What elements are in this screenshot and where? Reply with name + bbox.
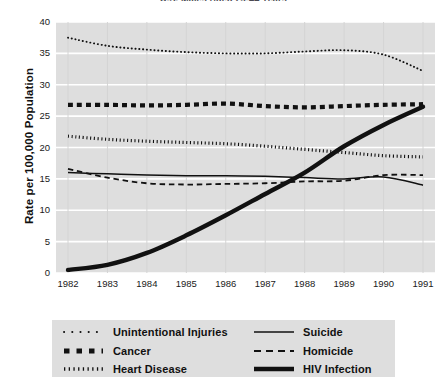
legend-swatch-icon [252, 362, 296, 376]
legend-item-label: Heart Disease [113, 363, 187, 375]
chart-legend: Unintentional InjuriesCancerHeart Diseas… [52, 320, 395, 377]
legend-column-left: Unintentional InjuriesCancerHeart Diseas… [52, 320, 242, 377]
x-tick-label: 1982 [46, 278, 90, 289]
legend-item[interactable]: Cancer [52, 341, 242, 360]
y-axis-ticks: 0510152025303540 [22, 0, 50, 300]
legend-item[interactable]: Heart Disease [52, 359, 242, 378]
y-tick-label: 5 [24, 236, 50, 247]
y-tick-label: 10 [24, 204, 50, 215]
series-line [68, 38, 423, 71]
legend-item[interactable]: Homicide [242, 341, 395, 360]
y-tick-label: 30 [24, 79, 50, 90]
series-line [68, 104, 423, 108]
x-tick-label: 1989 [322, 278, 366, 289]
series-line [68, 136, 423, 157]
legend-swatch-icon [252, 344, 296, 358]
x-tick-label: 1988 [283, 278, 327, 289]
plot-canvas [56, 22, 435, 273]
legend-item-label: Cancer [113, 345, 151, 357]
legend-swatch-icon [62, 325, 106, 339]
chart-figure: U.S. Males Aged 25-44 Years Rate per 100… [0, 0, 447, 391]
x-tick-label: 1984 [125, 278, 169, 289]
legend-item-label: Unintentional Injuries [113, 326, 228, 338]
y-tick-label: 0 [24, 267, 50, 278]
y-tick-label: 20 [24, 142, 50, 153]
x-tick-label: 1990 [362, 278, 406, 289]
y-tick-label: 35 [24, 47, 50, 58]
y-tick-label: 40 [24, 16, 50, 27]
x-tick-label: 1983 [85, 278, 129, 289]
y-tick-label: 25 [24, 110, 50, 121]
legend-swatch-icon [62, 362, 106, 376]
legend-item[interactable]: Unintentional Injuries [52, 322, 242, 341]
x-tick-label: 1986 [204, 278, 248, 289]
legend-swatch-icon [62, 344, 106, 358]
plot-area [56, 22, 435, 273]
legend-item[interactable]: Suicide [242, 322, 395, 341]
legend-item-label: HIV Infection [303, 363, 372, 375]
legend-item[interactable]: HIV Infection [242, 359, 395, 378]
legend-swatch-icon [252, 325, 296, 339]
series-line [68, 107, 423, 270]
x-tick-label: 1985 [164, 278, 208, 289]
x-tick-label: 1991 [401, 278, 445, 289]
legend-column-right: SuicideHomicideHIV Infection [242, 320, 395, 377]
legend-item-label: Suicide [303, 326, 343, 338]
chart-title: U.S. Males Aged 25-44 Years [0, 0, 447, 1]
y-tick-label: 15 [24, 173, 50, 184]
x-axis-ticks: 1982198319841985198619871988198919901991 [0, 278, 447, 294]
legend-item-label: Homicide [303, 345, 353, 357]
x-tick-label: 1987 [243, 278, 287, 289]
